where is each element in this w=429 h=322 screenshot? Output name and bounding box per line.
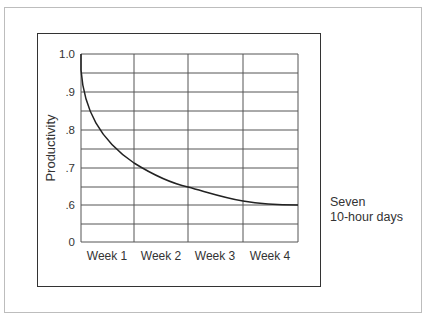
svg-text:.8: .8: [65, 124, 75, 136]
svg-text:.9: .9: [65, 86, 75, 98]
annotation-line2: 10-hour days: [330, 210, 403, 225]
svg-text:Week 2: Week 2: [141, 249, 182, 263]
annotation-line1: Seven: [330, 195, 365, 210]
grid: [81, 54, 298, 242]
y-tick-labels: 1.0 .9 .8 .7 .6 0: [59, 48, 75, 248]
y-axis-label: Productivity: [43, 114, 58, 182]
svg-text:.7: .7: [65, 162, 75, 174]
svg-text:Week 3: Week 3: [195, 249, 236, 263]
productivity-chart: 1.0 .9 .8 .7 .6 0 Week 1 Week 2 Week 3 W…: [0, 0, 429, 322]
x-tick-labels: Week 1 Week 2 Week 3 Week 4: [87, 249, 291, 263]
svg-text:.6: .6: [65, 199, 75, 211]
svg-text:Week 1: Week 1: [87, 249, 128, 263]
svg-text:1.0: 1.0: [59, 48, 75, 60]
svg-text:Week 4: Week 4: [250, 249, 291, 263]
svg-text:0: 0: [69, 236, 75, 248]
